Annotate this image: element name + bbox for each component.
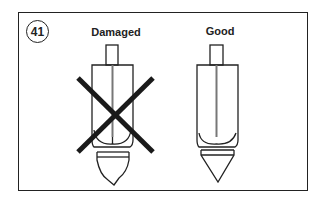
- electrode-diagram: [0, 0, 332, 206]
- good-electrode-icon: [197, 45, 238, 182]
- cross-out-icon: [78, 78, 153, 152]
